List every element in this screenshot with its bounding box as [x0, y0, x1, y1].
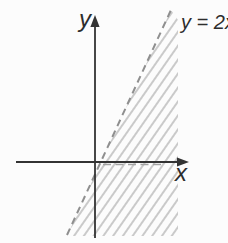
graph-figure: y x y = 2x: [0, 0, 228, 243]
coordinate-plane: y x y = 2x: [0, 0, 228, 243]
x-axis-label: x: [174, 159, 188, 186]
y-axis-arrow-icon: [90, 15, 99, 27]
line-equation-label: y = 2x: [179, 11, 228, 33]
shaded-region: [67, 10, 178, 236]
y-axis-label: y: [77, 5, 93, 32]
